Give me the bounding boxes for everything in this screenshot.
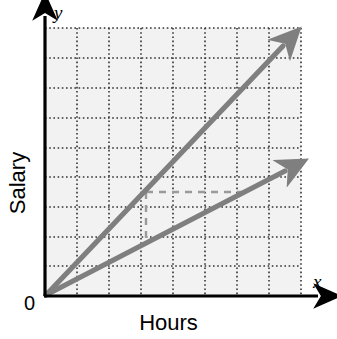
- x-axis-variable-label: x: [313, 272, 321, 291]
- salary-vs-hours-graph: y x 0 Hours Salary: [0, 0, 337, 339]
- y-axis-title: Salary: [7, 123, 29, 243]
- origin-label: 0: [24, 293, 35, 313]
- graph-canvas: [0, 0, 337, 339]
- x-axis-title: Hours: [0, 312, 337, 334]
- y-axis-variable-label: y: [54, 3, 62, 22]
